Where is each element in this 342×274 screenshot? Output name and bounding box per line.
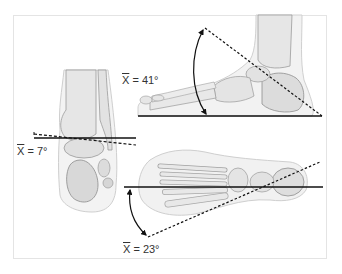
anatomy-illustration xyxy=(0,0,342,274)
angle-value: = 41° xyxy=(132,74,158,86)
dorsal-angle-label: X = 23° xyxy=(123,243,160,255)
lateral-foot-illustration xyxy=(138,15,322,116)
posterior-angle-label: X = 7° xyxy=(17,145,47,157)
mean-symbol: X xyxy=(17,145,24,157)
dorsal-foot-illustration xyxy=(124,150,323,237)
mean-symbol: X xyxy=(122,74,129,86)
mean-symbol: X xyxy=(123,243,130,255)
lateral-angle-label: X = 41° xyxy=(122,74,159,86)
angle-value: = 23° xyxy=(133,243,159,255)
angle-value: = 7° xyxy=(27,145,47,157)
posterior-ankle-illustration xyxy=(34,70,136,212)
